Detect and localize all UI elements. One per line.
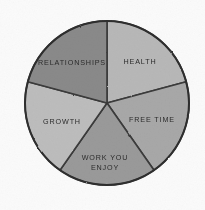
pie-label-free-time: FREE TIME <box>129 115 175 124</box>
pie-chart-container: HEALTH FREE TIME WORK YOUENJOY GROWTH RE… <box>0 0 205 210</box>
pie-chart-svg: HEALTH FREE TIME WORK YOUENJOY GROWTH RE… <box>0 0 205 210</box>
pie-label-health: HEALTH <box>124 57 157 66</box>
paper-grain-overlay <box>0 0 205 210</box>
pie-label-growth: GROWTH <box>43 117 81 126</box>
pie-label-relationships: RELATIONSHIPS <box>38 58 106 67</box>
